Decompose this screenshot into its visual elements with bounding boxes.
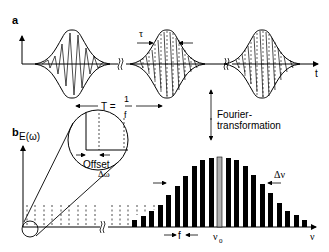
- frequency-comb-diagram: a t τ T = 1 f: [0, 0, 329, 252]
- fourier-label-2: transformation: [217, 120, 281, 131]
- x-axis-label: ν: [310, 231, 315, 242]
- center-freq-label: ν: [213, 231, 218, 242]
- center-freq-sub: 0: [219, 237, 223, 245]
- period-fraction-num: 1: [124, 94, 129, 104]
- fourier-label-1: Fourier-: [217, 109, 252, 120]
- y-axis-label: E(ω): [19, 131, 40, 142]
- center-bar: [217, 157, 222, 227]
- offset-delta-label: Δω: [98, 169, 110, 179]
- panel-a-label: a: [12, 14, 19, 26]
- tau-label: τ: [139, 28, 143, 39]
- bandwidth-label: Δν: [274, 169, 285, 180]
- comb-bars: [132, 157, 307, 227]
- panel-b-label: b: [12, 126, 19, 138]
- period-fraction-den: f: [124, 110, 127, 120]
- zoom-inset: [22, 110, 128, 237]
- time-axis-label: t: [315, 68, 318, 79]
- spacing-label: f: [178, 230, 181, 241]
